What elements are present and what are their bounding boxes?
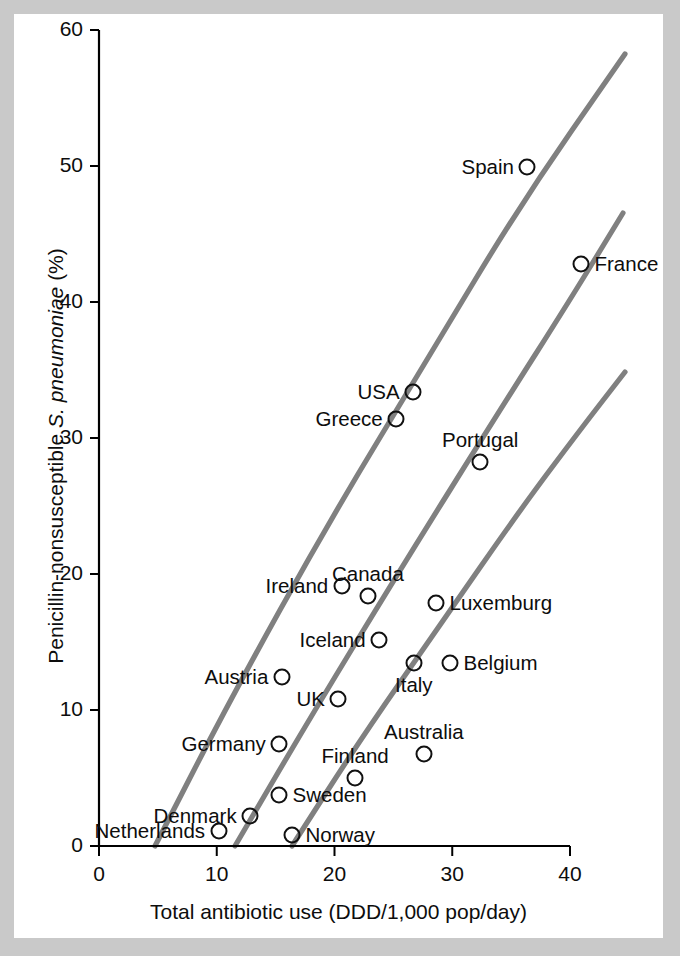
plot-graphics (0, 0, 680, 956)
data-point-label: Finland (322, 746, 389, 767)
y-axis-title-suffix: (%) (44, 248, 67, 287)
y-axis-title-prefix: Penicillin-nonsusceptible (44, 428, 67, 664)
y-tick-group (90, 30, 99, 846)
data-point-label: Australia (384, 722, 464, 743)
data-point-label: Portugal (442, 430, 518, 451)
data-point-label: Italy (395, 675, 433, 696)
data-point-label: Netherlands (95, 821, 206, 842)
x-axis-title: Total antibiotic use (DDD/1,000 pop/day) (14, 900, 663, 924)
data-point-marker (331, 692, 346, 707)
data-point-label: Norway (306, 825, 376, 846)
data-point-marker (473, 455, 488, 470)
data-point-marker (275, 670, 290, 685)
data-point-label: Canada (332, 564, 404, 585)
y-tick-label: 60 (21, 17, 83, 41)
middle-trend (235, 213, 623, 846)
data-point-marker (272, 788, 287, 803)
data-point-marker (520, 160, 535, 175)
data-point-marker (429, 596, 444, 611)
x-tick-label: 10 (177, 862, 257, 886)
data-point-label: France (595, 254, 659, 275)
x-tick-label: 20 (295, 862, 375, 886)
data-point-label: USA (358, 382, 400, 403)
data-point-marker (417, 747, 432, 762)
data-point-label: Spain (462, 157, 514, 178)
x-tick-label: 30 (412, 862, 492, 886)
figure-panel: 0102030405060 010203040 SpainFranceUSAGr… (14, 14, 663, 938)
data-point-label: Germany (182, 734, 266, 755)
data-point-marker (272, 737, 287, 752)
y-tick-label: 0 (21, 833, 83, 857)
y-axis-title: Penicillin-nonsusceptible S. pneumoniae … (44, 156, 68, 756)
data-point-label: Luxemburg (450, 593, 553, 614)
data-point-label: UK (297, 689, 325, 710)
data-point-label: Belgium (464, 653, 538, 674)
x-tick-label: 40 (530, 862, 610, 886)
data-point-label: Ireland (266, 576, 329, 597)
data-point-label: Iceland (300, 630, 366, 651)
data-point-marker (574, 257, 589, 272)
x-tick-group (99, 846, 570, 856)
data-point-label: Austria (205, 667, 269, 688)
x-tick-label: 0 (59, 862, 139, 886)
data-point-marker (361, 589, 376, 604)
data-point-marker (443, 656, 458, 671)
scatter-plot: 0102030405060 010203040 SpainFranceUSAGr… (14, 14, 663, 938)
data-point-label: Sweden (293, 785, 367, 806)
data-point-marker (372, 633, 387, 648)
y-axis-title-italic: S. pneumoniae (44, 287, 67, 428)
data-point-label: Greece (316, 409, 383, 430)
